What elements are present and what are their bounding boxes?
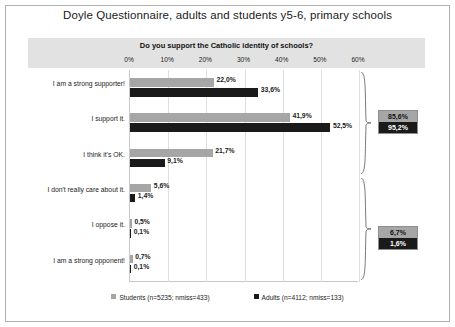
summary-box: 85,6%95,2% (378, 110, 418, 134)
summary-box: 6,7%1,6% (378, 226, 418, 250)
bar-row: I don't really care about it.5,6%1,4% (130, 176, 359, 211)
bar-value-label: 1,4% (138, 192, 154, 199)
chart-subtitle: Do you support the Catholic identity of … (28, 41, 425, 50)
bar-adults: 0,1% (130, 265, 131, 274)
category-label: I don't really care about it. (15, 186, 125, 193)
category-label: I oppose it. (15, 221, 125, 228)
bar-value-label: 0,7% (135, 253, 151, 260)
category-label: I support it. (15, 115, 125, 122)
bar-students: 21,7% (130, 149, 213, 158)
bar-row: I support it.41,9%52,5% (130, 105, 359, 140)
x-tick-label: 50% (313, 56, 326, 63)
summary-students-value: 6,7% (379, 227, 417, 238)
x-tick-label: 20% (199, 56, 212, 63)
bar-value-label: 22,0% (216, 76, 235, 83)
summary-adults-value: 95,2% (379, 122, 417, 133)
legend-swatch-icon (254, 294, 259, 299)
subtitle-band: Do you support the Catholic identity of … (28, 38, 425, 54)
bar-value-label: 41,9% (292, 112, 311, 119)
bar-adults: 9,1% (130, 159, 165, 168)
x-tick-label: 60% (351, 56, 364, 63)
bar-value-label: 0,5% (134, 218, 150, 225)
bar-value-label: 33,6% (261, 86, 280, 93)
category-label: I am a strong supporter! (15, 80, 125, 87)
bar-students: 41,9% (130, 113, 290, 122)
group-brace (360, 178, 372, 280)
x-tick-label: 30% (237, 56, 250, 63)
bar-students: 0,5% (130, 219, 132, 228)
bar-adults: 33,6% (130, 88, 258, 97)
summary-students-value: 85,6% (379, 111, 417, 122)
x-tick-label: 10% (161, 56, 174, 63)
legend-entry[interactable]: Students (n=5235; nmiss=433) (111, 293, 209, 301)
legend-swatch-icon (111, 294, 116, 299)
bar-row: I am a strong opponent!0,7%0,1% (130, 247, 359, 282)
bar-students: 5,6% (130, 184, 151, 193)
group-brace (360, 72, 372, 174)
bar-value-label: 52,5% (333, 122, 352, 129)
category-label: I think it's OK. (15, 151, 125, 158)
summary-adults-value: 1,6% (379, 238, 417, 249)
x-tick-label: 40% (275, 56, 288, 63)
bar-value-label: 5,6% (154, 182, 170, 189)
bar-value-label: 21,7% (215, 147, 234, 154)
bar-adults: 0,1% (130, 229, 131, 238)
bar-row: I am a strong supporter!22,0%33,6% (130, 70, 359, 105)
bar-students: 0,7% (130, 255, 133, 264)
x-tick-label: 0% (124, 56, 134, 63)
category-label: I am a strong opponent! (15, 257, 125, 264)
page-title: Doyle Questionnaire, adults and students… (0, 9, 455, 21)
chart-figure: Doyle Questionnaire, adults and students… (0, 0, 455, 327)
plot-area: I am a strong supporter!22,0%33,6%I supp… (129, 70, 358, 282)
bar-adults: 52,5% (130, 123, 330, 132)
axis-band (28, 54, 425, 68)
bar-value-label: 9,1% (167, 157, 183, 164)
bar-row: I oppose it.0,5%0,1% (130, 211, 359, 246)
bar-row: I think it's OK.21,7%9,1% (130, 141, 359, 176)
bar-adults: 1,4% (130, 194, 135, 203)
legend-label: Adults (n=4112; nmiss=133) (262, 294, 344, 301)
legend-label: Students (n=5235; nmiss=433) (119, 294, 209, 301)
legend-entry[interactable]: Adults (n=4112; nmiss=133) (254, 293, 344, 301)
bar-value-label: 0,1% (134, 228, 150, 235)
bar-value-label: 0,1% (134, 263, 150, 270)
chart-legend: Students (n=5235; nmiss=433)Adults (n=41… (0, 293, 455, 301)
bar-students: 22,0% (130, 78, 214, 87)
